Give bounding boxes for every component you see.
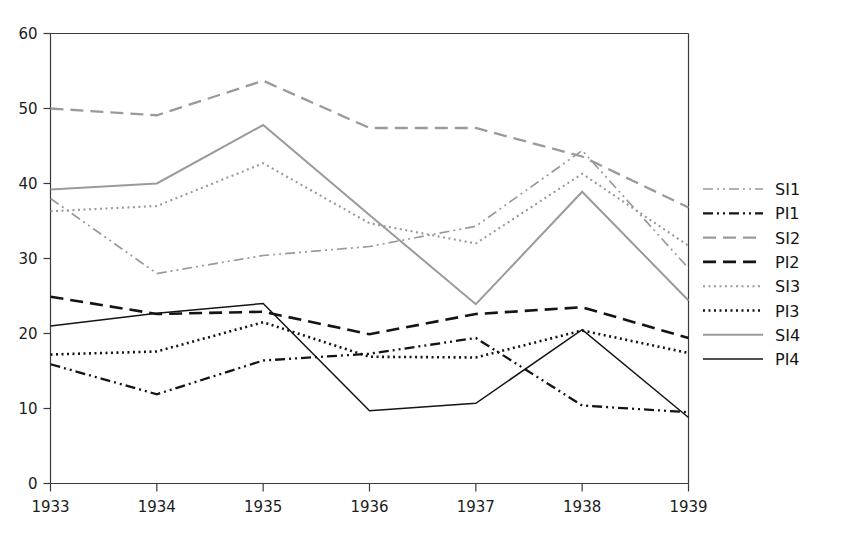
y-tick-label: 20: [18, 325, 37, 343]
chart-background: [0, 0, 854, 554]
legend-label-si2: SI2: [775, 229, 800, 248]
y-tick-label: 40: [18, 175, 37, 193]
legend-label-si4: SI4: [775, 326, 800, 345]
x-tick-label: 1935: [244, 498, 282, 516]
x-tick-label: 1938: [563, 498, 601, 516]
line-chart: 0102030405060 19331934193519361937193819…: [0, 0, 854, 554]
legend-label-pi2: PI2: [775, 253, 800, 272]
y-tick-label: 50: [18, 100, 37, 118]
y-tick-label: 60: [18, 25, 37, 43]
x-tick-label: 1933: [31, 498, 69, 516]
y-tick-label: 0: [28, 475, 38, 493]
x-tick-label: 1936: [350, 498, 388, 516]
y-tick-label: 10: [18, 400, 37, 418]
legend-label-si3: SI3: [775, 277, 800, 296]
x-tick-label: 1934: [138, 498, 176, 516]
legend-label-pi4: PI4: [775, 350, 800, 369]
y-tick-label: 30: [18, 250, 37, 268]
legend-label-si1: SI1: [775, 180, 800, 199]
x-tick-label: 1937: [457, 498, 495, 516]
chart-canvas: 0102030405060 19331934193519361937193819…: [0, 0, 854, 554]
legend-label-pi3: PI3: [775, 302, 800, 321]
x-tick-label: 1939: [669, 498, 707, 516]
legend-label-pi1: PI1: [775, 204, 800, 223]
